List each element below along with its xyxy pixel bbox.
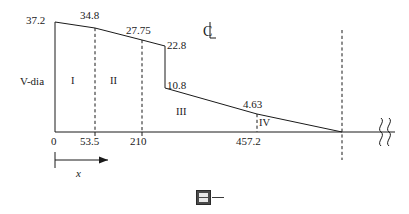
- region-label-iv: IV: [259, 118, 270, 129]
- value-label-4-63: 4.63: [243, 99, 262, 110]
- centerline-c-glyph: C: [203, 24, 212, 39]
- tick-label-53-5: 53.5: [80, 136, 99, 147]
- tick-label-210: 210: [130, 136, 147, 147]
- x-arrow-head: [99, 157, 108, 164]
- value-label-34-8: 34.8: [80, 10, 99, 21]
- shear-force-diagram: C 37.2 34.8 27.75 22.8 10.8 4.63 0 53.5 …: [0, 0, 409, 214]
- x-axis-label: x: [76, 168, 81, 179]
- value-label-10-8: 10.8: [167, 80, 186, 91]
- diagram-svg: C: [0, 0, 409, 214]
- region-label-ii: II: [110, 76, 117, 87]
- value-label-37-2: 37.2: [26, 15, 45, 26]
- tick-label-457-2: 457.2: [236, 136, 261, 147]
- value-label-27-75: 27.75: [126, 25, 151, 36]
- caption-glyph-icon: [196, 190, 211, 205]
- shear-curve-lower: [165, 88, 342, 132]
- value-label-22-8: 22.8: [167, 40, 186, 51]
- region-label-iii: III: [176, 107, 187, 118]
- region-label-i: I: [71, 76, 75, 87]
- caption-dash-icon: [212, 197, 224, 198]
- tick-label-0: 0: [51, 136, 57, 147]
- v-diagram-label: V-dia: [20, 76, 44, 87]
